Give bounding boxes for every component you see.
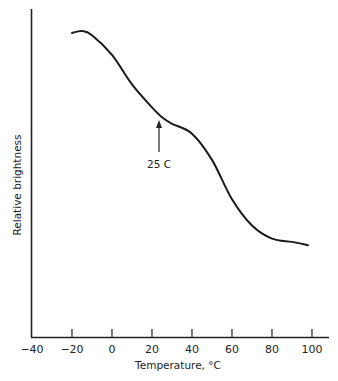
x-ticks — [72, 329, 312, 337]
annotation-label: 25 C — [147, 158, 171, 170]
x-axis: −40−20020406080100 — [20, 329, 329, 356]
x-tick-label: −40 — [20, 343, 43, 356]
x-tick-labels: −40−20020406080100 — [20, 343, 322, 356]
x-tick-label: 40 — [185, 343, 199, 356]
x-tick-label: 60 — [225, 343, 239, 356]
x-tick-label: 0 — [109, 343, 116, 356]
annotation-25c: 25 C — [147, 120, 171, 170]
x-tick-label: −20 — [60, 343, 83, 356]
x-tick-label: 80 — [265, 343, 279, 356]
x-tick-label: 100 — [302, 343, 323, 356]
chart: −40−20020406080100 Temperature, °C Relat… — [0, 0, 338, 381]
arrow-head-icon — [156, 120, 162, 128]
y-axis-title: Relative brightness — [11, 134, 23, 235]
x-axis-title: Temperature, °C — [134, 359, 221, 371]
x-tick-label: 20 — [145, 343, 159, 356]
brightness-curve — [72, 31, 308, 245]
